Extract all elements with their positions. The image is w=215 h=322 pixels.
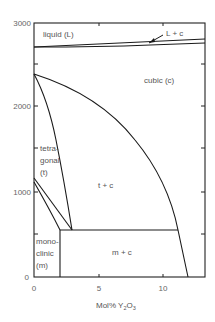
x-tick-10: 10 [159, 284, 168, 293]
x-tick-0: 0 [32, 284, 37, 293]
y-tick-3000: 3000 [13, 19, 31, 28]
y-tick-0: 0 [25, 273, 30, 282]
region-liquid: liquid (L) [43, 30, 74, 39]
x-tick-5: 5 [97, 284, 102, 293]
region-m-plus-c: m + c [112, 248, 132, 257]
region-cubic: cubic (c) [144, 76, 175, 85]
solidus-line [34, 43, 205, 47]
y-tick-1000: 1000 [13, 188, 31, 197]
t-m-lower-boundary [34, 182, 60, 230]
y-tick-2000: 2000 [13, 102, 31, 111]
region-tetragonal-1: tetra- [40, 144, 59, 153]
arrow-head-icon [149, 38, 155, 43]
region-monoclinic-2: clinic [36, 249, 54, 258]
region-tetragonal-3: (t) [40, 168, 48, 177]
region-monoclinic-3: (m) [36, 261, 48, 270]
region-l-plus-c: L + c [166, 29, 183, 38]
region-tetragonal-2: gonal [40, 156, 60, 165]
region-monoclinic-1: mono- [36, 237, 59, 246]
phase-boundaries [34, 39, 205, 277]
phase-diagram: 3000 2000 1000 0 0 5 10 Mol% Y2O3 liquid… [0, 0, 215, 322]
region-t-plus-c: t + c [98, 181, 113, 190]
t-m-upper-boundary [34, 178, 72, 230]
x-axis-label: Mol% Y2O3 [96, 301, 136, 311]
tc-c-boundary [34, 74, 188, 277]
